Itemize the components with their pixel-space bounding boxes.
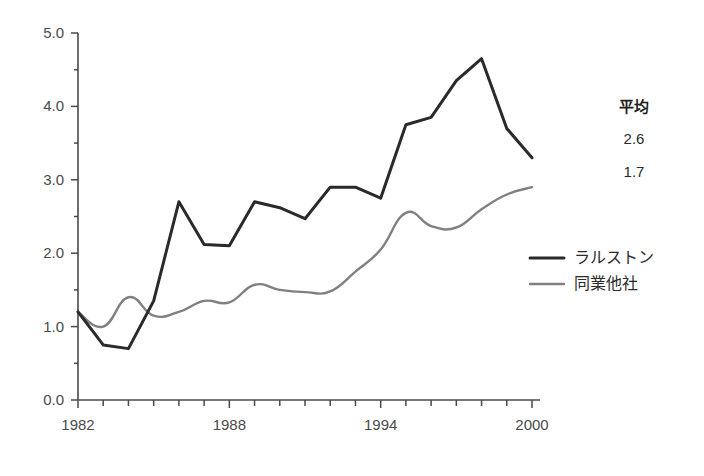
y-axis: 0.01.02.03.04.05.0: [43, 24, 78, 408]
series-line-2: [78, 187, 532, 327]
y-tick-label: 1.0: [43, 318, 64, 335]
average-value-1: 2.6: [624, 130, 645, 147]
x-tick-label: 1994: [364, 416, 397, 433]
y-tick-label: 2.0: [43, 244, 64, 261]
y-tick-label: 0.0: [43, 391, 64, 408]
y-tick-label: 5.0: [43, 24, 64, 41]
x-tick-label: 2000: [515, 416, 548, 433]
average-value-2: 1.7: [624, 163, 645, 180]
y-tick-label: 3.0: [43, 171, 64, 188]
x-tick-label: 1988: [213, 416, 246, 433]
line-chart: 0.01.02.03.04.05.0 1982198819942000 ラルスト…: [0, 0, 704, 476]
chart-legend: ラルストン同業他社: [530, 248, 654, 293]
series-lines: [78, 59, 532, 349]
series-line-1: [78, 59, 532, 349]
average-annotation: 平均2.61.7: [619, 98, 649, 180]
x-tick-label: 1982: [61, 416, 94, 433]
x-axis: 1982198819942000: [61, 400, 548, 433]
legend-label-2: 同業他社: [574, 274, 638, 293]
y-tick-label: 4.0: [43, 97, 64, 114]
average-header: 平均: [619, 98, 649, 116]
chart-figure: 0.01.02.03.04.05.0 1982198819942000 ラルスト…: [0, 0, 704, 476]
legend-label-1: ラルストン: [574, 248, 654, 267]
